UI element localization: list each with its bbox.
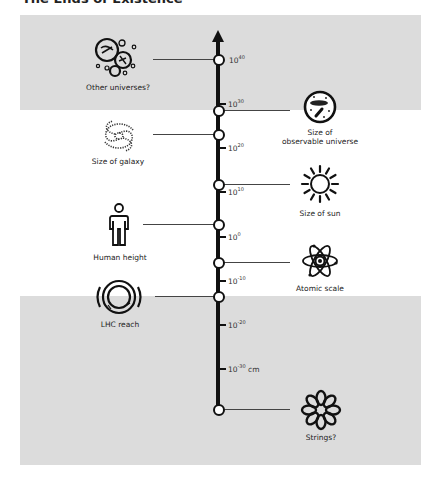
node-human: [213, 219, 225, 231]
sun-icon: [300, 164, 340, 204]
diagram-title: The Ends of Existence: [22, 0, 183, 6]
node-strings: [213, 404, 225, 416]
tick-mark: [220, 324, 226, 326]
connector-strings: [221, 409, 290, 410]
node-atom: [213, 257, 225, 269]
tick-label-1e20: 1020: [228, 142, 244, 153]
node-lhc: [213, 291, 225, 303]
connector-human: [143, 224, 215, 225]
tick-label-1e0: 100: [228, 231, 241, 242]
label-observable-universe: Size of observable universe: [270, 128, 370, 146]
connector-observable-universe: [221, 110, 290, 111]
universe-icon: [302, 89, 338, 125]
label-other-universes: Other universes?: [78, 83, 158, 92]
node-other-universes: [213, 54, 225, 66]
spiral-galaxy-icon: [97, 118, 141, 154]
connector-lhc: [155, 296, 215, 297]
tick-mark: [220, 147, 226, 149]
tick-label-1e-30: 10-30 cm: [228, 363, 260, 374]
arrow-up-icon: [212, 30, 224, 42]
node-sun: [213, 179, 225, 191]
tick-mark: [220, 368, 226, 370]
label-strings: Strings?: [281, 433, 361, 442]
bubble-universes-icon: [93, 36, 143, 78]
label-lhc: LHC reach: [80, 320, 160, 329]
tick-label-1e-20: 10-20: [228, 319, 246, 330]
tick-mark: [220, 280, 226, 282]
label-galaxy: Size of galaxy: [78, 157, 158, 166]
connector-galaxy: [153, 134, 215, 135]
connector-atom: [221, 262, 290, 263]
tick-mark: [220, 191, 226, 193]
tick-label-1e40: 1040: [229, 54, 245, 65]
label-sun: Size of sun: [280, 209, 360, 218]
tick-label-1e-10: 10-10: [228, 275, 246, 286]
connector-other-universes: [153, 59, 215, 60]
person-icon: [107, 203, 131, 247]
collider-ring-icon: [94, 277, 144, 317]
connector-sun: [221, 184, 290, 185]
node-galaxy: [213, 129, 225, 141]
label-human: Human height: [80, 253, 160, 262]
tick-mark: [220, 236, 226, 238]
string-loop-icon: [299, 389, 343, 431]
atom-icon: [301, 242, 339, 280]
tick-label-1e10: 1010: [228, 186, 244, 197]
label-atom: Atomic scale: [280, 284, 360, 293]
node-observable-universe: [213, 105, 225, 117]
tick-label-1e30: 1030: [228, 98, 244, 109]
